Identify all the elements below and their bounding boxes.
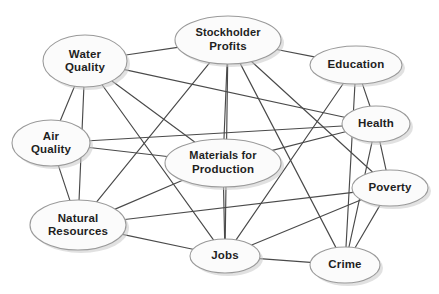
node-label-crime: Crime <box>328 258 361 270</box>
node-label-water_quality: Quality <box>65 61 105 73</box>
edge-poverty-jobs <box>252 200 362 245</box>
node-label-air_quality: Quality <box>31 143 71 155</box>
node-label-air_quality: Air <box>43 130 60 142</box>
node-label-materials: Materials for <box>189 149 257 161</box>
edge-air_quality-materials <box>89 147 167 156</box>
edge-natural-jobs <box>122 234 192 249</box>
edge-education-crime <box>346 84 355 247</box>
node-label-poverty: Poverty <box>368 181 412 193</box>
node-crime[interactable]: Crime <box>310 247 383 286</box>
node-air_quality[interactable]: AirQuality <box>12 120 93 169</box>
edge-materials-jobs <box>224 187 225 239</box>
node-label-stockholder: Profits <box>209 40 246 52</box>
node-label-health: Health <box>358 117 394 129</box>
concept-map-canvas: WaterQualityStockholderProfitsEducationA… <box>0 0 439 294</box>
node-label-stockholder: Stockholder <box>195 26 261 38</box>
node-water_quality[interactable]: WaterQuality <box>43 35 130 90</box>
node-natural[interactable]: NaturalResources <box>30 200 129 253</box>
node-layer: WaterQualityStockholderProfitsEducationA… <box>12 16 431 286</box>
edge-water_quality-health <box>125 70 345 118</box>
edge-water_quality-stockholder <box>126 47 178 55</box>
node-label-jobs: Jobs <box>211 249 238 261</box>
edge-stockholder-education <box>277 50 315 57</box>
edge-air_quality-health <box>90 126 342 141</box>
edge-education-health <box>362 84 370 106</box>
concept-map-svg: WaterQualityStockholderProfitsEducationA… <box>0 0 439 294</box>
node-education[interactable]: Education <box>310 46 405 87</box>
edge-air_quality-natural <box>58 166 69 201</box>
node-poverty[interactable]: Poverty <box>352 170 431 209</box>
node-materials[interactable]: Materials forProduction <box>165 139 284 190</box>
edge-water_quality-air_quality <box>60 86 74 120</box>
node-health[interactable]: Health <box>342 106 413 145</box>
node-label-education: Education <box>328 58 385 70</box>
edge-poverty-crime <box>355 205 380 247</box>
node-stockholder[interactable]: StockholderProfits <box>175 16 284 67</box>
edge-jobs-crime <box>260 259 311 263</box>
edge-health-poverty <box>380 142 386 170</box>
node-label-materials: Production <box>192 163 254 175</box>
node-label-water_quality: Water <box>69 48 102 60</box>
node-label-natural: Natural <box>58 212 99 224</box>
edge-materials-natural <box>115 180 183 209</box>
node-label-natural: Resources <box>48 225 108 237</box>
